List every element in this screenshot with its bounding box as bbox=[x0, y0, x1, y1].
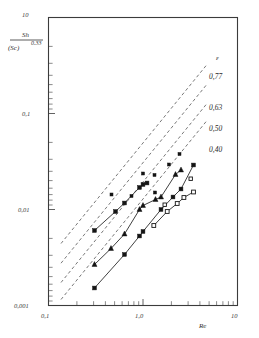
legend-label-077: 0,77 bbox=[209, 72, 222, 81]
data-point bbox=[189, 177, 192, 180]
legend-label-050: 0,50 bbox=[209, 124, 222, 133]
y-axis-title-exponent: 0.33 bbox=[31, 40, 42, 46]
y-tick-label-0.01: 0,01 bbox=[18, 206, 29, 213]
data-point bbox=[165, 210, 169, 214]
series-eps-063 bbox=[92, 167, 184, 266]
scatter-extra-points bbox=[110, 153, 192, 207]
data-point bbox=[178, 153, 181, 156]
legend-symbol-epsilon: ε bbox=[216, 54, 219, 62]
data-point bbox=[175, 202, 179, 206]
data-point bbox=[138, 186, 142, 190]
x-axis-title: Re bbox=[198, 322, 206, 330]
data-point bbox=[153, 174, 156, 177]
y-axis-title-numerator: Sh bbox=[22, 31, 30, 39]
data-point bbox=[173, 172, 178, 177]
data-point bbox=[168, 163, 171, 166]
y-tick-label-10: 10 bbox=[22, 11, 29, 18]
data-point bbox=[179, 187, 183, 191]
data-point bbox=[159, 208, 163, 212]
data-point bbox=[171, 195, 175, 199]
x-axis-ticks bbox=[49, 299, 238, 306]
data-point bbox=[141, 183, 145, 187]
data-point bbox=[93, 229, 97, 233]
series-eps-050 bbox=[93, 163, 196, 290]
data-point bbox=[192, 190, 196, 194]
data-point bbox=[142, 172, 145, 175]
series-line-eps-063 bbox=[95, 170, 182, 265]
plot-frame bbox=[49, 18, 238, 306]
y-axis-title: Sh (Sc) 0.33 bbox=[8, 31, 43, 52]
x-tick-label-10: 10 bbox=[231, 312, 238, 319]
x-tick-label-0.1: 0,1 bbox=[41, 312, 49, 319]
y-axis-title-denominator: (Sc) bbox=[8, 44, 20, 52]
data-point bbox=[123, 201, 127, 205]
legend-label-040: 0,40 bbox=[209, 145, 222, 154]
y-tick-label-0.1: 0,1 bbox=[22, 110, 30, 117]
data-point bbox=[179, 167, 184, 172]
data-point bbox=[145, 181, 149, 185]
data-point bbox=[141, 230, 145, 234]
data-point bbox=[123, 253, 127, 257]
x-tick-label-1.0: 1,0 bbox=[135, 312, 144, 319]
reference-line-077 bbox=[61, 65, 207, 244]
y-tick-label-0.001: 0,001 bbox=[14, 302, 29, 309]
chart-figure: 10 0,1 0,01 0,001 Sh (Sc) 0.33 0,1 1,0 1… bbox=[0, 0, 259, 338]
reference-line-040 bbox=[61, 121, 207, 300]
data-point bbox=[93, 286, 97, 290]
loglog-plot-svg: 10 0,1 0,01 0,001 Sh (Sc) 0.33 0,1 1,0 1… bbox=[0, 0, 259, 338]
series-eps-077 bbox=[93, 181, 149, 232]
reference-line-063 bbox=[61, 84, 207, 263]
y-axis-ticks bbox=[49, 18, 56, 306]
data-point bbox=[163, 203, 166, 206]
data-point bbox=[182, 196, 186, 200]
data-point bbox=[152, 224, 156, 228]
data-point bbox=[114, 210, 118, 214]
data-point bbox=[192, 163, 196, 167]
data-point bbox=[138, 234, 142, 238]
legend-label-063: 0,63 bbox=[209, 103, 222, 112]
data-point bbox=[154, 191, 157, 194]
data-point bbox=[130, 195, 133, 198]
data-point bbox=[110, 193, 113, 196]
